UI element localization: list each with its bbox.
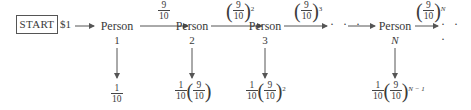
left-paren: ( xyxy=(416,1,423,21)
fraction: 1 10 xyxy=(372,80,384,101)
fraction: 9 10 xyxy=(233,0,245,21)
fraction: 9 10 xyxy=(423,0,435,21)
fraction: 1 10 xyxy=(175,80,187,101)
exponent: 2 xyxy=(282,85,286,93)
numerator: 9 xyxy=(303,0,310,10)
node-label: Person xyxy=(101,19,134,33)
right-paren: ) xyxy=(276,81,283,101)
left-paren: ( xyxy=(187,81,194,101)
left-paren: ( xyxy=(294,1,301,21)
ellipsis-end: · · · xyxy=(441,17,471,47)
right-paren: ) xyxy=(244,1,251,21)
denominator: 10 xyxy=(158,10,170,21)
node-label: Person xyxy=(176,19,209,33)
numerator: 9 xyxy=(425,0,432,10)
numerator: 1 xyxy=(248,80,255,90)
numerator: 9 xyxy=(267,80,274,90)
right-paren: ) xyxy=(434,1,441,21)
start-box: START xyxy=(16,15,58,34)
denominator: 10 xyxy=(111,93,123,104)
exponent: N xyxy=(441,5,446,13)
left-paren: ( xyxy=(226,1,233,21)
fraction: 1 10 xyxy=(111,83,123,104)
node-person-3: Person 3 xyxy=(240,19,290,47)
node-label: Person xyxy=(379,19,412,33)
node-index: N xyxy=(370,33,420,47)
right-paren: ) xyxy=(312,1,319,21)
left-paren: ( xyxy=(258,81,265,101)
amount-person-n: 1 10 ( 9 10 ) N − 1 xyxy=(372,80,425,101)
numerator: 9 xyxy=(160,0,167,10)
fraction: 9 10 xyxy=(264,80,276,101)
initial-amount: $1 xyxy=(60,18,71,30)
denominator: 10 xyxy=(301,10,313,21)
node-person-2: Person 2 xyxy=(167,19,217,47)
edge-label-2-3: ( 9 10 ) 2 xyxy=(226,0,254,21)
fraction: 9 10 xyxy=(158,0,170,21)
exponent: N − 1 xyxy=(408,85,424,93)
right-paren: ) xyxy=(205,81,212,101)
fraction: 9 10 xyxy=(301,0,313,21)
denominator: 10 xyxy=(233,10,245,21)
node-index: 2 xyxy=(167,33,217,47)
denominator: 10 xyxy=(246,90,258,101)
fraction: 1 10 xyxy=(246,80,258,101)
edge-label-1-2: 9 10 xyxy=(158,0,170,21)
denominator: 10 xyxy=(390,90,402,101)
numerator: 9 xyxy=(393,80,400,90)
amount-person-3: 1 10 ( 9 10 ) 2 xyxy=(246,80,286,101)
denominator: 10 xyxy=(175,90,187,101)
numerator: 1 xyxy=(177,80,184,90)
amount-person-2: 1 10 ( 9 10 ) xyxy=(175,80,211,101)
node-person-1: Person 1 xyxy=(92,19,142,47)
numerator: 1 xyxy=(113,83,120,93)
denominator: 10 xyxy=(193,90,205,101)
amount-person-1: 1 10 xyxy=(111,83,123,104)
edge-label-n-next: ( 9 10 ) N xyxy=(416,0,446,21)
edge-label-3-next: ( 9 10 ) 3 xyxy=(294,0,322,21)
numerator: 9 xyxy=(235,0,242,10)
denominator: 10 xyxy=(264,90,276,101)
numerator: 9 xyxy=(196,80,203,90)
denominator: 10 xyxy=(423,10,435,21)
fraction: 9 10 xyxy=(193,80,205,101)
denominator: 10 xyxy=(372,90,384,101)
node-person-n: Person N xyxy=(370,19,420,47)
node-label: Person xyxy=(249,19,282,33)
exponent: 2 xyxy=(251,5,255,13)
exponent: 3 xyxy=(319,5,323,13)
node-index: 1 xyxy=(92,33,142,47)
numerator: 1 xyxy=(374,80,381,90)
left-paren: ( xyxy=(384,81,391,101)
node-index: 3 xyxy=(240,33,290,47)
fraction: 9 10 xyxy=(390,80,402,101)
ellipsis-middle: · · · xyxy=(330,17,363,32)
